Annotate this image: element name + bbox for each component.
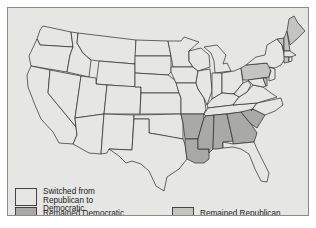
state-kansas: [140, 93, 181, 114]
state-colorado: [104, 85, 141, 114]
state-pennsylvania: [241, 63, 271, 80]
state-wyoming: [96, 61, 135, 87]
legend-item-remained-republican: Remained Republican: [172, 207, 281, 216]
state-iowa: [171, 67, 198, 83]
state-washington: [37, 26, 73, 47]
us-states-map: [8, 8, 309, 216]
legend-swatch-remained-republican: [172, 207, 194, 216]
state-rhode-island: [289, 57, 292, 62]
state-massachusetts: [284, 51, 296, 57]
state-nebraska: [135, 73, 179, 93]
legend-label-remained-democratic: Remained Democratic: [43, 207, 124, 216]
legend-swatch-remained-democratic: [15, 207, 37, 216]
state-maine: [287, 16, 305, 45]
state-florida: [223, 142, 269, 182]
legend-label-remained-republican: Remained Republican: [200, 207, 281, 216]
map-frame: Switched from Republican to Democratic R…: [7, 7, 309, 216]
state-arizona: [73, 114, 104, 154]
state-connecticut: [284, 57, 289, 63]
legend-item-remained-democratic: Remained Democratic: [15, 207, 124, 216]
legend-swatch-switched: [15, 188, 37, 206]
state-south-dakota: [135, 56, 171, 75]
state-new-jersey: [269, 67, 275, 81]
state-new-mexico: [101, 114, 134, 154]
state-north-dakota: [135, 40, 171, 56]
